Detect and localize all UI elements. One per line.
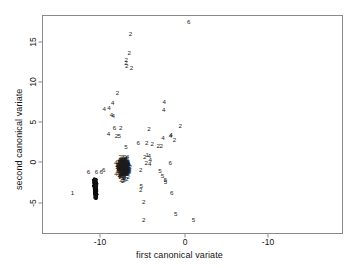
data-point: 4: [148, 160, 152, 167]
data-point: 6: [170, 189, 174, 196]
data-point: 4: [162, 106, 166, 113]
data-point: 2: [130, 64, 134, 71]
data-point: 5: [174, 210, 178, 217]
data-point: 1: [71, 189, 75, 196]
x-axis-ticks: -10 0 -10: [94, 234, 275, 248]
data-point: 4: [103, 105, 107, 112]
y-axis-ticks: 15 10 5 0 -5: [28, 37, 42, 207]
plot-canvas: 15 10 5 0 -5 -10 0 -10 12244214262452122…: [0, 0, 359, 268]
data-point: 6: [102, 166, 106, 173]
data-point: 4: [111, 99, 115, 106]
data-point: 5: [192, 216, 196, 223]
data-points-layer: 6222222244444442262425444262222514242465…: [71, 18, 196, 224]
data-point: 2: [173, 136, 177, 143]
data-point: 2: [119, 124, 123, 131]
y-tick-label-0: 0: [28, 159, 38, 164]
data-point: 4: [107, 104, 111, 111]
data-point: 6: [87, 168, 91, 175]
x-tick-label-right: -10: [262, 237, 275, 247]
data-point: 2: [124, 158, 128, 165]
data-point: 5: [120, 165, 124, 172]
data-point: 2: [116, 89, 120, 96]
data-point: 2: [125, 62, 129, 69]
plot-frame: [43, 16, 343, 234]
data-point: 5: [164, 178, 168, 185]
data-point: 6: [94, 182, 98, 189]
data-point: 4: [161, 134, 165, 141]
data-point: 6: [187, 18, 191, 25]
data-point: 2: [128, 49, 132, 56]
data-point: 4: [162, 98, 166, 105]
dense-cluster-left: 1224421426245212244214262452122442142624…: [114, 153, 132, 185]
data-point: 4: [111, 112, 115, 119]
data-point: 6: [95, 168, 99, 175]
data-point: 2: [179, 122, 183, 129]
data-point: 4: [122, 175, 126, 182]
y-tick-label-minus5: -5: [28, 199, 38, 207]
data-point: 6: [168, 159, 172, 166]
data-point: 6: [113, 124, 117, 131]
scatter-plot-figure: 15 10 5 0 -5 -10 0 -10 12244214262452122…: [0, 0, 359, 268]
data-point: 2: [142, 216, 146, 223]
x-tick-label-left: -10: [94, 237, 107, 247]
x-tick-label-mid: 0: [183, 237, 188, 247]
y-tick-label-15: 15: [28, 37, 38, 47]
y-tick-label-5: 5: [28, 119, 38, 124]
y-tick-label-10: 10: [28, 77, 38, 87]
data-point: 6: [94, 194, 98, 201]
data-point: 2: [159, 142, 163, 149]
data-point: 6: [137, 139, 141, 146]
data-point: 2: [147, 125, 151, 132]
data-point: 5: [117, 132, 121, 139]
data-point: 5: [124, 143, 128, 150]
data-point: 2: [151, 140, 155, 147]
data-point: 2: [139, 166, 143, 173]
data-point: 2: [139, 186, 143, 193]
x-axis-title: first canonical variate: [0, 250, 359, 260]
data-point: 2: [125, 167, 129, 174]
data-point: 2: [129, 30, 133, 37]
data-point: 2: [145, 139, 149, 146]
data-point: 2: [142, 198, 146, 205]
y-axis-title: second canonical variate: [14, 89, 24, 190]
data-point: 4: [107, 130, 111, 137]
